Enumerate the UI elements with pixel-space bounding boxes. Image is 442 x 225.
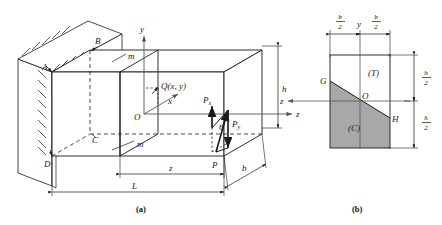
- vertex-label-C: C: [92, 135, 99, 145]
- axis-label-z: z: [295, 109, 300, 119]
- section-label-m-top: m: [128, 51, 135, 61]
- zone-label-compression: (C): [348, 123, 360, 133]
- axis-label-z-b: z: [279, 96, 284, 106]
- section-point-label-G: G: [320, 76, 327, 86]
- beam-body: [52, 50, 262, 156]
- axis-label-x: x: [167, 96, 172, 106]
- dimension-label-h: h: [282, 84, 287, 94]
- caption-panel-b: (b): [352, 204, 363, 214]
- point-label-Q: Q(x, y): [161, 81, 186, 91]
- section-point-label-O: O: [362, 91, 369, 101]
- axis-label-y-b: y: [356, 19, 361, 29]
- section-point-label-H: H: [391, 114, 399, 124]
- dimension-label-b: b: [242, 163, 247, 173]
- dimension-label-L: L: [131, 181, 137, 191]
- engineering-figure: m m A B C D y z x O: [0, 0, 442, 225]
- svg-text:h: h: [424, 114, 428, 122]
- svg-text:2: 2: [424, 124, 428, 132]
- dimension-label-z: z: [168, 163, 173, 173]
- section-label-m-bottom: m: [137, 139, 144, 149]
- force-angle-theta: θ: [219, 122, 224, 132]
- axis-label-y: y: [139, 24, 144, 34]
- zone-label-tension: (T): [368, 68, 379, 78]
- vertex-label-B: B: [95, 36, 101, 46]
- force-label-P: P: [211, 160, 218, 170]
- svg-text:b: b: [374, 13, 378, 21]
- svg-text:h: h: [424, 69, 428, 77]
- svg-text:2: 2: [338, 23, 342, 31]
- vertex-label-D: D: [43, 159, 51, 169]
- caption-panel-a: (a): [136, 204, 146, 214]
- svg-text:b: b: [338, 13, 342, 21]
- svg-text:2: 2: [374, 23, 378, 31]
- svg-text:2: 2: [424, 79, 428, 87]
- origin-label-O: O: [134, 112, 141, 122]
